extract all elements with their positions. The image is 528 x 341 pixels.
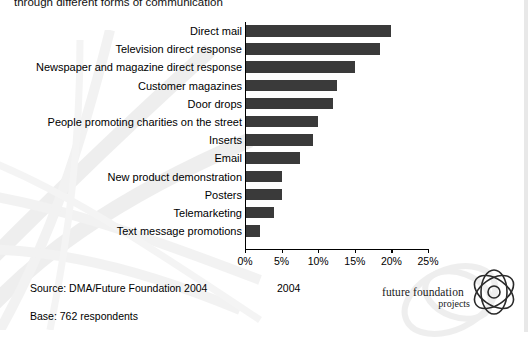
category-label: Text message promotions: [117, 222, 242, 240]
chart-row: Customer magazines: [0, 77, 528, 95]
chart-footer: Source: DMA/Future Foundation 2004 2004 …: [0, 262, 528, 332]
bar: [245, 25, 391, 37]
logo-sub-text: projects: [382, 298, 470, 309]
bar: [245, 116, 318, 128]
logo-swirl-icon: [468, 268, 520, 316]
chart-row: Text message promotions: [0, 222, 528, 240]
chart-title: through different forms of communication: [14, 0, 434, 9]
category-label: Posters: [205, 186, 242, 204]
legend-label-2004: 2004: [277, 282, 300, 294]
bar: [245, 134, 313, 146]
category-label: Television direct response: [115, 40, 242, 58]
chart-rows: Direct mailTelevision direct responseNew…: [0, 22, 528, 240]
chart-row: Posters: [0, 186, 528, 204]
category-label: Customer magazines: [138, 77, 242, 95]
logo-main-text: future foundation: [382, 286, 482, 298]
source-note: Source: DMA/Future Foundation 2004: [30, 282, 207, 294]
category-label: Telemarketing: [174, 204, 242, 222]
chart-row: People promoting charities on the street: [0, 113, 528, 131]
chart-row: Email: [0, 149, 528, 167]
bar: [245, 171, 282, 183]
chart-row: New product demonstration: [0, 168, 528, 186]
x-tick: [282, 249, 283, 253]
base-note: Base: 762 respondents: [30, 310, 138, 322]
category-label: People promoting charities on the street: [48, 113, 242, 131]
bar: [245, 98, 333, 110]
x-tick: [355, 249, 356, 253]
category-label: Inserts: [209, 131, 242, 149]
chart-row: Telemarketing: [0, 204, 528, 222]
category-label: Direct mail: [190, 22, 242, 40]
bar: [245, 80, 337, 92]
bar: [245, 189, 282, 201]
bar: [245, 61, 355, 73]
x-axis-line: [245, 249, 428, 250]
chart-row: Direct mail: [0, 22, 528, 40]
chart-row: Door drops: [0, 95, 528, 113]
category-label: Email: [214, 149, 242, 167]
bar: [245, 225, 260, 237]
chart-row: Newspaper and magazine direct response: [0, 58, 528, 76]
category-label: New product demonstration: [107, 168, 242, 186]
bar: [245, 152, 300, 164]
chart-row: Inserts: [0, 131, 528, 149]
bar: [245, 43, 380, 55]
scan-edge-artifact: [524, 0, 528, 332]
bar: [245, 207, 274, 219]
x-tick: [428, 249, 429, 253]
bar-chart: Direct mailTelevision direct responseNew…: [0, 22, 528, 262]
chart-row: Television direct response: [0, 40, 528, 58]
y-axis-line: [245, 22, 246, 249]
future-foundation-logo: future foundation projects: [382, 286, 482, 309]
x-tick: [318, 249, 319, 253]
x-tick: [245, 249, 246, 253]
category-label: Door drops: [188, 95, 242, 113]
x-tick: [391, 249, 392, 253]
category-label: Newspaper and magazine direct response: [36, 58, 242, 76]
